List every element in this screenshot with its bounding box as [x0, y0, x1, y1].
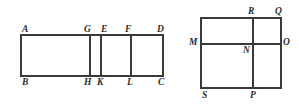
vertex-label-M: M [189, 38, 198, 48]
vertex-label-K: K [97, 78, 104, 88]
vertex-label-O: O [283, 38, 290, 48]
vertex-label-H: H [84, 78, 92, 88]
vertex-label-Q: Q [275, 7, 282, 17]
vertex-label-F: F [125, 25, 132, 35]
square-outline [201, 18, 281, 88]
vertex-label-S: S [202, 91, 207, 101]
vertex-label-E: E [101, 25, 108, 35]
vertex-label-G: G [84, 25, 91, 35]
vertex-label-R: R [248, 7, 255, 17]
right-figure-group [201, 18, 281, 88]
vertex-label-C: C [158, 78, 165, 88]
vertex-label-B: B [22, 78, 29, 88]
vertex-label-P: P [250, 91, 256, 101]
rectangle-abcd-outline [21, 35, 163, 76]
diagram-canvas: A G E F D B H K L C R Q M N O S P [0, 0, 299, 110]
vertex-label-A: A [22, 25, 29, 35]
vertex-label-N: N [243, 46, 250, 56]
left-figure-group [21, 35, 163, 76]
vertex-label-L: L [127, 78, 133, 88]
vertex-label-D: D [157, 25, 164, 35]
